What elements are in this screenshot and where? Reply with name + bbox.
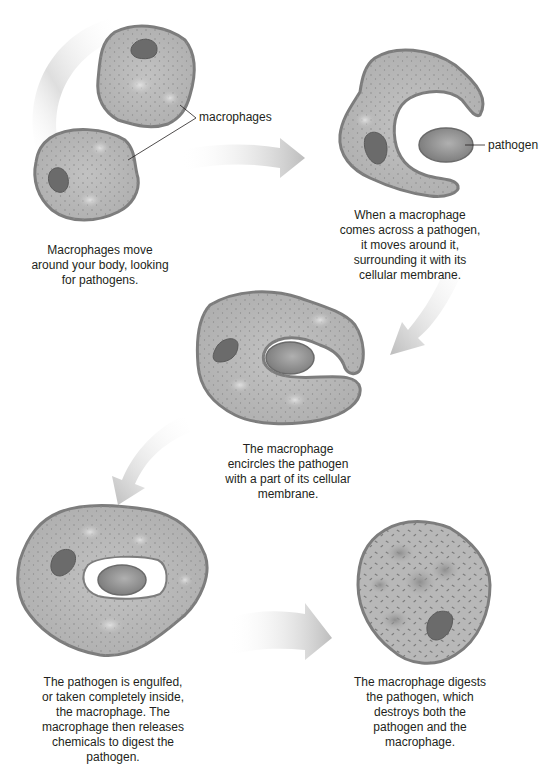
macrophage-cell-1a [98, 26, 195, 127]
step-4-caption: The pathogen is engulfed, or taken compl… [38, 675, 188, 765]
arrow-step4-to-step5 [228, 603, 332, 660]
step-5-caption: The macrophage digests the pathogen, whi… [350, 675, 490, 750]
step-3-caption: The macrophage encircles the pathogen wi… [218, 442, 358, 502]
macrophages-label: macrophages [199, 110, 272, 124]
pathogen-label: pathogen [488, 138, 538, 152]
macrophage-cell-2 [340, 50, 483, 197]
step-1-caption: Macrophages move around your body, looki… [30, 243, 170, 288]
macrophage-cell-1b [35, 130, 139, 220]
pathogen [266, 342, 314, 374]
macrophage-cell-5 [358, 522, 490, 664]
step-2-caption: When a macrophage comes across a pathoge… [335, 208, 485, 283]
arrow-step1-to-step2 [180, 138, 305, 178]
arrow-step3-to-step4 [112, 415, 190, 505]
pathogen [419, 128, 473, 162]
pathogen [98, 565, 146, 595]
